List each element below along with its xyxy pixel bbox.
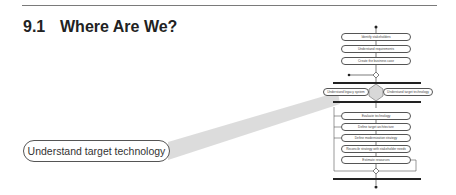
decision-diamond-icon xyxy=(373,72,379,78)
activity-node: Understand requirements xyxy=(341,45,411,53)
activity-node: Define target architecture xyxy=(341,123,411,131)
end-node-icon xyxy=(375,186,378,189)
join-bar xyxy=(333,101,421,103)
zoom-highlight-wedge xyxy=(168,92,340,160)
callout-target-technology: Understand target technology xyxy=(23,140,170,162)
activity-node: Reconcile strategy with stakeholder need… xyxy=(341,145,411,153)
activity-node: Identify stakeholders xyxy=(341,33,411,41)
activity-node: Estimate resources xyxy=(341,156,411,164)
activity-node: Evaluate technology xyxy=(341,112,411,120)
loop-end-dot-icon xyxy=(348,74,351,77)
parallel-activity-node: Understand legacy system xyxy=(323,88,369,96)
fork-bar xyxy=(333,82,421,84)
activity-node: Create the business case xyxy=(341,57,411,65)
merge-diamond-icon xyxy=(373,168,379,174)
bottom-bar xyxy=(333,178,421,180)
activity-node: Define modernization strategy xyxy=(341,134,411,142)
parallel-activity-node: Understand target technology xyxy=(383,88,433,96)
activity-diagram xyxy=(0,0,456,195)
parallel-junction-icon xyxy=(369,84,383,101)
